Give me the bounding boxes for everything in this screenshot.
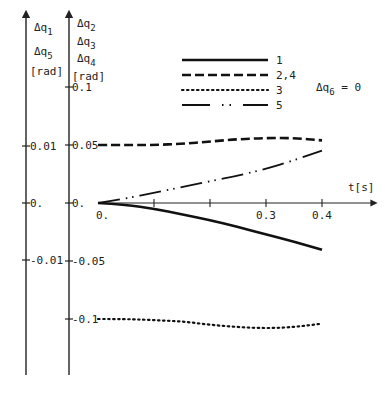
series-2-4 (98, 138, 322, 145)
svg-text:5: 5 (276, 99, 283, 112)
annotation-dq6: Δq6 = 0 (316, 82, 361, 94)
series-lines (98, 138, 322, 328)
series-1 (98, 203, 322, 250)
svg-text:3: 3 (276, 84, 283, 97)
svg-text:0.: 0. (72, 197, 85, 210)
right-axis-unit: [rad] (72, 71, 105, 83)
svg-text:0.05: 0.05 (72, 139, 99, 152)
legend: 12,435 (182, 54, 296, 112)
svg-text:0.4: 0.4 (312, 209, 332, 222)
svg-text:0.3: 0.3 (256, 209, 276, 222)
right-axis-label-q4: Δq4 (77, 53, 96, 65)
svg-text:1: 1 (276, 54, 283, 67)
svg-text:-0.05: -0.05 (72, 255, 105, 268)
svg-text:-0.1: -0.1 (72, 313, 99, 326)
series-3 (98, 319, 322, 328)
svg-text:2,4: 2,4 (276, 69, 296, 82)
left-axis-unit: [rad] (30, 66, 63, 78)
left-axis-label-q1: Δq1 (34, 22, 53, 34)
svg-text:0.: 0. (30, 197, 43, 210)
series-5 (98, 151, 322, 203)
chart-canvas: 12,435 0.010.-0.010.10.050.-0.05-0.10.0.… (0, 0, 392, 394)
x-axis-label: t[s] (348, 182, 375, 194)
svg-text:0.01: 0.01 (30, 140, 57, 153)
svg-text:0.: 0. (96, 209, 109, 222)
right-axis-label-q3: Δq3 (77, 36, 96, 48)
right-axis-label-q2: Δq2 (77, 18, 96, 30)
svg-text:-0.01: -0.01 (30, 254, 63, 267)
left-axis-label-q5: Δq5 (34, 46, 53, 58)
